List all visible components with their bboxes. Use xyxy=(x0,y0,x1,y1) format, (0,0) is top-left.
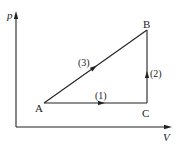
point-b-label: B xyxy=(143,18,150,30)
x-axis-arrow-icon xyxy=(164,125,172,129)
process-3-label: (3) xyxy=(78,57,90,69)
x-axis-label: V xyxy=(163,131,171,143)
point-a-label: A xyxy=(35,102,43,114)
process-1-label: (1) xyxy=(95,90,107,102)
y-axis-arrow-icon xyxy=(14,11,18,19)
process-1-arrow-icon xyxy=(98,101,105,105)
y-axis-label: p xyxy=(6,9,13,21)
pv-diagram: p V A B C (1) (2) (3) xyxy=(0,0,178,148)
process-2-label: (2) xyxy=(150,68,162,80)
process-2-arrow-icon xyxy=(145,71,149,78)
point-c-label: C xyxy=(142,107,149,119)
